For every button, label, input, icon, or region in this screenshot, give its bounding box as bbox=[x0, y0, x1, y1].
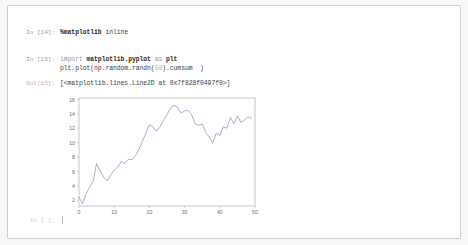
y-tick-label: 4 bbox=[72, 183, 75, 189]
notebook-panel: In [14]:%matplotlib inline In [15]:impor… bbox=[7, 5, 461, 239]
x-tick-label: 40 bbox=[217, 209, 223, 215]
code-cell-empty[interactable]: In [ ]: bbox=[8, 216, 461, 225]
code-token: matplotlib.pyplot bbox=[87, 56, 151, 63]
output-repr-text: [<matplotlib.lines.Line2D at 0x7f828f049… bbox=[60, 79, 230, 88]
code-token: plt.plot(np.random.randn( bbox=[60, 65, 155, 72]
figure-svg: 246810121416 01020304050 bbox=[60, 92, 265, 220]
x-tick-label: 50 bbox=[252, 209, 258, 215]
y-tick-label: 8 bbox=[72, 154, 75, 160]
code-source-1[interactable]: %matplotlib inline bbox=[60, 28, 128, 37]
y-tick-label: 2 bbox=[72, 197, 75, 203]
code-token: %matplotlib bbox=[60, 29, 102, 36]
y-tick-label: 16 bbox=[69, 97, 75, 103]
output-text-row: Out[15]: [<matplotlib.lines.Line2D at 0x… bbox=[8, 79, 460, 88]
figure-background bbox=[60, 92, 265, 220]
code-cell-1[interactable]: In [14]:%matplotlib inline bbox=[8, 28, 460, 37]
output-prompt-2: Out[15]: bbox=[8, 79, 60, 88]
code-line: %matplotlib inline bbox=[60, 28, 128, 37]
code-token: plt bbox=[166, 56, 177, 63]
text-caret bbox=[62, 216, 63, 224]
y-tick-label: 6 bbox=[72, 169, 75, 175]
code-source-2[interactable]: import matplotlib.pyplot as pltplt.plot(… bbox=[60, 55, 204, 73]
input-prompt-2: In [15]: bbox=[8, 55, 60, 64]
code-cell-2[interactable]: In [15]:import matplotlib.pyplot as pltp… bbox=[8, 55, 460, 73]
code-line: import matplotlib.pyplot as plt bbox=[60, 55, 204, 64]
x-tick-label: 10 bbox=[111, 209, 117, 215]
x-tick-label: 20 bbox=[147, 209, 153, 215]
x-tick-label: 0 bbox=[78, 209, 81, 215]
code-line: plt.plot(np.random.randn(50).cumsum ) bbox=[60, 64, 204, 73]
x-tick-label: 30 bbox=[182, 209, 188, 215]
y-tick-label: 10 bbox=[69, 140, 75, 146]
y-tick-label: 12 bbox=[69, 125, 75, 131]
notebook-page: In [14]:%matplotlib inline In [15]:impor… bbox=[0, 0, 468, 245]
code-token: ).cumsum ) bbox=[162, 65, 204, 72]
input-prompt-empty: In [ ]: bbox=[8, 216, 60, 225]
code-token: import bbox=[60, 56, 83, 63]
input-prompt-1: In [14]: bbox=[8, 28, 60, 37]
code-input-empty[interactable] bbox=[60, 216, 360, 225]
matplotlib-figure: 246810121416 01020304050 bbox=[60, 92, 265, 220]
code-token: inline bbox=[102, 29, 129, 36]
y-tick-label: 14 bbox=[69, 111, 75, 117]
